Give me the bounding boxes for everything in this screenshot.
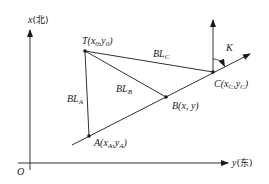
point-a (87, 134, 91, 138)
angle-k-label: K (225, 42, 234, 53)
segment-tc-label: BLC (153, 48, 170, 61)
point-t (83, 49, 87, 53)
diagram-canvas: x(北) y(东) O T(x0,y0) A(xA,yA) B(x, y) C(… (0, 0, 269, 184)
point-a-label: A(xA,yA) (93, 137, 127, 150)
east-axis-label: y(东) (231, 157, 252, 168)
segment-ta (85, 51, 89, 136)
segment-tb-label: BLB (116, 83, 133, 96)
point-c (211, 70, 215, 74)
point-b (164, 95, 168, 99)
point-b-label: B(x, y) (172, 100, 199, 112)
point-t-label: T(x0,y0) (82, 35, 113, 48)
segment-ta-label: BLA (67, 93, 84, 106)
origin-label: O (17, 166, 24, 177)
north-axis-label: x(北) (27, 14, 48, 25)
coordinate-diagram: x(北) y(东) O T(x0,y0) A(xA,yA) B(x, y) C(… (0, 0, 269, 184)
angle-k-arc (213, 59, 225, 66)
point-c-label: C(xC,yC) (214, 78, 249, 91)
line-abc (72, 54, 250, 145)
